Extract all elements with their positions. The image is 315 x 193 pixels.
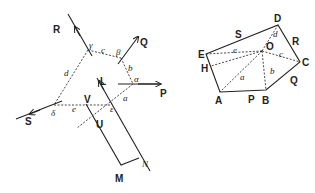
label-L: L [100, 76, 106, 87]
label-P: P [160, 88, 167, 99]
vertex-A: A [215, 95, 222, 106]
ray-label-d: d [273, 29, 278, 39]
angle-epsilon: ε [110, 104, 114, 114]
vertex-C: C [302, 57, 309, 68]
segment-d [54, 50, 88, 105]
seg-label-d: d [64, 68, 69, 78]
ray-b [262, 51, 266, 90]
side-S: S [235, 29, 242, 40]
side-R: R [292, 36, 300, 47]
vertex-B: B [262, 95, 269, 106]
angle-beta: β [115, 47, 121, 57]
angle-alpha: α [134, 74, 139, 84]
vertex-D: D [274, 13, 281, 24]
label-M: M [115, 173, 123, 184]
label-R: R [53, 24, 61, 35]
arrow-S-icon [30, 110, 40, 114]
angle-gamma: γ [89, 40, 93, 50]
vertex-H: H [201, 63, 208, 74]
seg-label-e: e [72, 104, 76, 114]
seg-label-c: c [101, 45, 105, 55]
label-U: U [96, 119, 103, 130]
ray-label-e: e [233, 45, 237, 55]
side-Q: Q [290, 75, 298, 86]
left-figure: R Q P S L M N U V γ β α δ ε c b d e a [16, 14, 167, 184]
arrow-Q-icon [118, 37, 138, 64]
ray-label-b: b [270, 66, 275, 76]
vertex-E: E [198, 49, 205, 60]
vertex-O: O [266, 41, 274, 52]
label-N: N [141, 159, 149, 169]
angle-delta: δ [51, 108, 56, 118]
seg-label-a: a [123, 93, 128, 103]
force-polygon-diagram: R Q P S L M N U V γ β α δ ε c b d e a D … [0, 0, 315, 193]
label-S: S [25, 116, 32, 127]
side-P: P [248, 94, 255, 105]
ray-label-c: c [279, 49, 283, 59]
arrow-R-icon [75, 27, 80, 36]
label-Q: Q [140, 37, 148, 48]
right-figure: D E H A B C O S R Q P e a b c d [198, 13, 309, 106]
ray-label-a: a [240, 72, 245, 82]
segment-a [77, 84, 133, 128]
polygon-ABCDE [206, 25, 300, 92]
label-V: V [84, 94, 91, 105]
seg-label-b: b [128, 63, 133, 73]
